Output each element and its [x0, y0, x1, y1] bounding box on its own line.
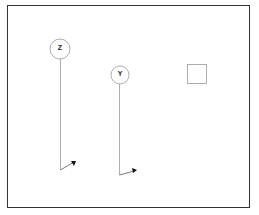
arrow-z — [61, 162, 75, 170]
node-y-label: Y — [110, 70, 130, 77]
diagram-canvas — [0, 0, 259, 215]
square-shape — [188, 65, 207, 84]
node-z — [50, 39, 76, 170]
node-z-label: Z — [50, 44, 70, 51]
node-y — [111, 66, 137, 175]
arrowhead-y-icon — [132, 168, 137, 173]
arrow-y — [120, 171, 135, 175]
